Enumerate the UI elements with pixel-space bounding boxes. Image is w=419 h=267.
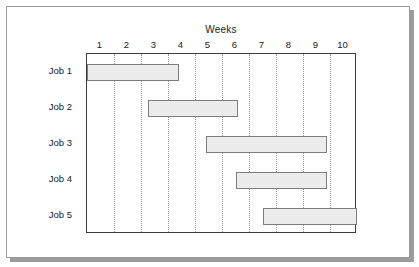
gantt-bars: [87, 54, 355, 232]
x-tick-label-5: 5: [194, 39, 221, 53]
y-axis-tick-labels: Job 1Job 2Job 3Job 4Job 5: [7, 53, 81, 233]
x-axis-tick-labels: 12345678910: [86, 39, 356, 53]
x-tick-label-4: 4: [167, 39, 194, 53]
x-tick-label-2: 2: [113, 39, 140, 53]
y-tick-label-job-2: Job 2: [49, 100, 72, 114]
gantt-bar-job-1: [87, 64, 179, 81]
x-tick-label-3: 3: [140, 39, 167, 53]
chart-title: Weeks: [86, 24, 356, 35]
x-tick-label-9: 9: [302, 39, 329, 53]
figure-frame: Weeks 12345678910 Job 1Job 2Job 3Job 4Jo…: [6, 6, 410, 258]
gantt-bar-job-2: [148, 100, 238, 117]
x-tick-label-1: 1: [86, 39, 113, 53]
gantt-bar-job-5: [263, 208, 358, 225]
x-tick-label-6: 6: [221, 39, 248, 53]
y-tick-label-job-5: Job 5: [49, 208, 72, 222]
x-tick-label-7: 7: [248, 39, 275, 53]
gantt-chart: Weeks 12345678910 Job 1Job 2Job 3Job 4Jo…: [7, 7, 411, 259]
gantt-bar-job-4: [236, 172, 328, 189]
y-tick-label-job-4: Job 4: [49, 172, 72, 186]
y-tick-label-job-3: Job 3: [49, 136, 72, 150]
gantt-bar-job-3: [206, 136, 328, 153]
x-tick-label-8: 8: [275, 39, 302, 53]
x-tick-label-10: 10: [329, 39, 356, 53]
plot-area: [86, 53, 356, 233]
y-tick-label-job-1: Job 1: [49, 64, 72, 78]
